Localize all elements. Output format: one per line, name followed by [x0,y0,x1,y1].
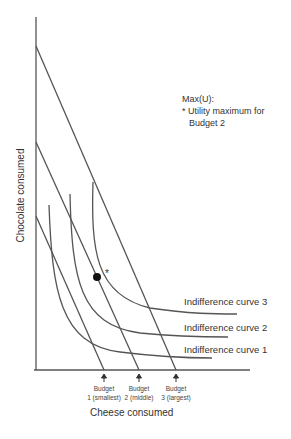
indifference-curve-1 [49,205,212,358]
budget-3-label: Budget 3 (largest) [150,384,202,402]
indifference-curve-3 [93,182,237,314]
indifference-curve-2 [70,194,228,337]
indifference-curve-3-label: Indifference curve 3 [184,296,267,307]
annotation-line-3: Budget 2 [182,117,265,129]
indifference-curve-2-label: Indifference curve 2 [184,322,267,333]
annotation-line-2: * Utility maximum for [182,105,265,117]
arrow-up-icon [137,374,142,378]
budget-3-label-line1: Budget [150,384,202,393]
utility-max-point [93,273,101,281]
budget-line-2 [36,142,139,370]
optimum-star: * [105,268,109,279]
annotation-line-1: Max(U): [182,93,265,105]
annotation-box: Max(U): * Utility maximum for Budget 2 [182,93,265,129]
arrow-up-icon [102,374,107,378]
x-axis-label: Cheese consumed [90,407,173,418]
budget-3-label-line2: 3 (largest) [150,393,202,402]
y-axis-label: Chocolate consumed [15,146,26,246]
indifference-curve-1-label: Indifference curve 1 [184,344,267,355]
budget-arrow-icons [102,374,179,382]
diagram-canvas [0,0,291,439]
arrow-up-icon [174,374,179,378]
